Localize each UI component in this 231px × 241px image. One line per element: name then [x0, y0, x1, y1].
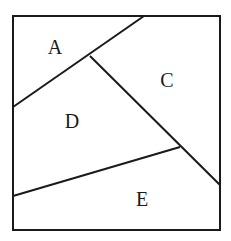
- region-label-c: C: [160, 69, 173, 91]
- partition-diagram: A C D E: [0, 0, 231, 241]
- outer-square: [13, 16, 220, 230]
- line-c-d-boundary: [90, 56, 220, 185]
- region-label-d: D: [65, 110, 79, 132]
- region-label-e: E: [136, 188, 148, 210]
- line-a-boundary: [13, 16, 144, 107]
- line-d-e-boundary: [13, 147, 180, 196]
- region-label-a: A: [48, 36, 63, 58]
